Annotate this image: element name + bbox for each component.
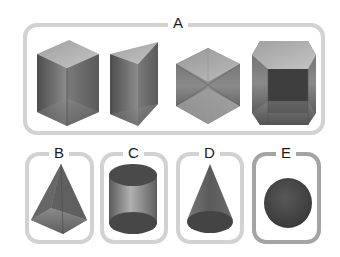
triangular-prism-shape — [110, 42, 158, 126]
hexagonal-prism-shape — [252, 41, 316, 125]
cone-shape — [185, 164, 235, 234]
label-group-e: E — [276, 145, 296, 161]
square-pyramid-shape — [31, 164, 87, 234]
cylinder-shape — [109, 164, 157, 234]
sphere-shape — [264, 178, 312, 228]
rectangular-prism-shape — [37, 40, 99, 126]
label-group-c: C — [123, 145, 144, 161]
hexagonal-prism-view-shape — [176, 48, 240, 124]
label-group-d: D — [199, 145, 220, 161]
label-group-b: B — [49, 145, 69, 161]
label-group-a: A — [168, 15, 188, 31]
